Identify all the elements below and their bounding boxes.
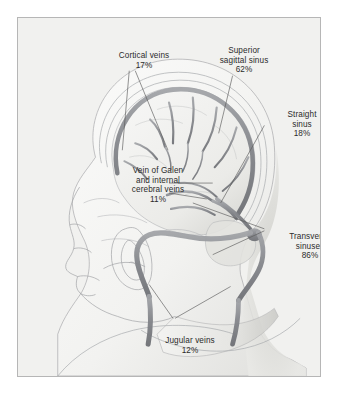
callout-superior-sagittal-sinus-percent: 62% [196,65,292,75]
callout-straight-sinus: Straight sinus 18% [270,110,321,139]
callout-straight-sinus-line2: sinus [270,120,321,130]
callout-transverse-sinuses-percent: 86% [272,251,321,261]
callout-superior-sagittal-sinus: Superior sagittal sinus 62% [196,46,292,75]
callout-jugular-veins-line1: Jugular veins [142,336,238,346]
illustration-panel: Cortical veins 17% Superior sagittal sin… [17,17,321,377]
callout-vein-of-galen-line3: cerebral veins [110,185,206,195]
callout-transverse-sinuses-line1: Transverse [272,232,321,242]
figure-root: Cortical veins 17% Superior sagittal sin… [0,0,339,396]
callout-straight-sinus-line1: Straight [270,110,321,120]
callout-transverse-sinuses-line2: sinuses [272,242,321,252]
callout-cortical-veins-percent: 17% [98,61,190,71]
callout-superior-sagittal-sinus-line1: Superior [196,46,292,56]
callout-straight-sinus-percent: 18% [270,129,321,139]
callout-cortical-veins-line1: Cortical veins [98,51,190,61]
callout-vein-of-galen-line2: and internal [110,176,206,186]
callout-superior-sagittal-sinus-line2: sagittal sinus [196,56,292,66]
callout-jugular-veins-percent: 12% [142,346,238,356]
callout-jugular-veins: Jugular veins 12% [142,336,238,355]
callout-vein-of-galen-percent: 11% [110,195,206,205]
callout-vein-of-galen-line1: Vein of Galen [110,166,206,176]
callout-vein-of-galen: Vein of Galen and internal cerebral vein… [110,166,206,204]
callout-cortical-veins: Cortical veins 17% [98,51,190,70]
callout-transverse-sinuses: Transverse sinuses 86% [272,232,321,261]
